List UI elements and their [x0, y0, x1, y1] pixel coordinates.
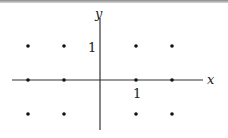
lattice-point [26, 44, 30, 48]
coordinate-plane: x y 1 1 [0, 0, 228, 138]
lattice-point [134, 44, 138, 48]
lattice-point [62, 44, 66, 48]
lattice-point [170, 44, 174, 48]
lattice-point [26, 78, 30, 82]
lattice-point [26, 112, 30, 116]
lattice-point [62, 112, 66, 116]
lattice-point [134, 112, 138, 116]
y-axis-label: y [94, 6, 103, 21]
x-axis-label: x [207, 72, 215, 87]
lattice-point [134, 78, 138, 82]
x-unit-tick-label: 1 [133, 86, 141, 101]
lattice-point [62, 78, 66, 82]
y-unit-tick-label: 1 [88, 40, 96, 55]
lattice-point [170, 78, 174, 82]
lattice-point [170, 112, 174, 116]
